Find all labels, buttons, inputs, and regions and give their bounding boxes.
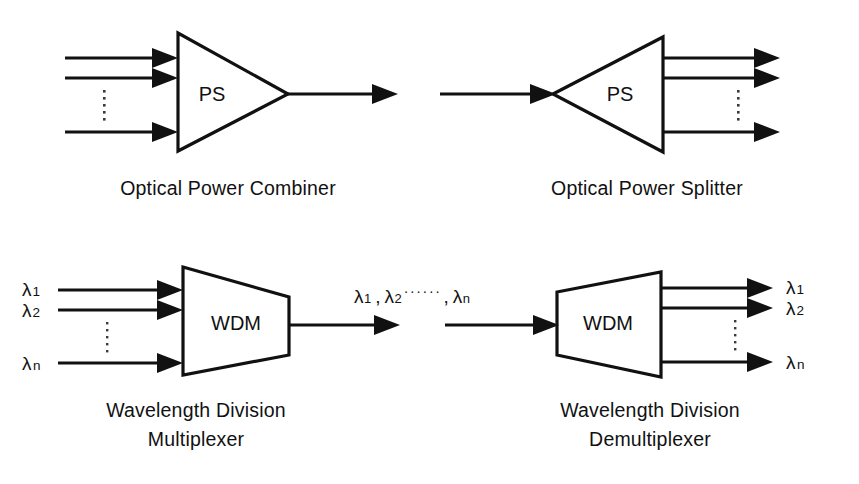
splitter-output-arrow-1 bbox=[754, 48, 780, 68]
trunk-link: λ1,λ2······,λn bbox=[289, 283, 559, 335]
demux-caption-line-1: Wavelength Division bbox=[560, 399, 740, 421]
splitter-output-wires bbox=[662, 48, 780, 142]
mux-input-arrow-1 bbox=[157, 280, 183, 300]
trunk-lambda-2-subscript: 2 bbox=[395, 291, 402, 306]
mux-input-arrow-2 bbox=[157, 300, 183, 320]
mux-input-label-1-symbol: λ bbox=[22, 279, 32, 300]
combiner-caption: Optical Power Combiner bbox=[120, 177, 336, 199]
demux-output-label-n-subscript: n bbox=[797, 357, 805, 372]
optical-components-diagram: PS Optical Power Combiner PS bbox=[0, 0, 859, 484]
demux-device-label: WDM bbox=[583, 312, 633, 334]
trunk-lambda-1-subscript: 1 bbox=[364, 291, 371, 306]
combiner-output-arrow bbox=[372, 84, 398, 104]
mux-input-label-2-symbol: λ bbox=[22, 300, 32, 321]
mux-input-arrow-n bbox=[157, 353, 183, 373]
mux-input-label-n-symbol: λ bbox=[22, 353, 32, 374]
wdm-multiplexer-panel: λ1 λ2 λn bbox=[22, 267, 289, 450]
splitter-output-arrow-n bbox=[754, 122, 780, 142]
combiner-input-arrow-2 bbox=[152, 68, 178, 88]
demux-output-label-2-symbol: λ bbox=[786, 298, 796, 319]
trunk-ellipsis-icon: ······ bbox=[404, 283, 442, 299]
demux-output-arrow-1 bbox=[747, 278, 773, 298]
mux-input-label-n: λn bbox=[22, 353, 41, 374]
mux-input-label-n-subscript: n bbox=[33, 358, 41, 373]
mux-device-label: WDM bbox=[211, 312, 261, 334]
trunk-arrow-left bbox=[374, 315, 400, 335]
mux-input-label-1: λ1 bbox=[22, 279, 40, 300]
trunk-arrow-right bbox=[533, 315, 559, 335]
splitter-output-arrow-2 bbox=[754, 68, 780, 88]
demux-output-ellipsis-icon bbox=[734, 320, 736, 350]
trunk-wavelength-label: λ1,λ2······,λn bbox=[354, 283, 470, 307]
mux-input-label-1-subscript: 1 bbox=[33, 284, 41, 299]
demux-output-label-n-symbol: λ bbox=[786, 352, 796, 373]
mux-caption-line-1: Wavelength Division bbox=[106, 399, 286, 421]
trunk-lambda-1: λ bbox=[354, 286, 364, 307]
mux-input-ellipsis-icon bbox=[106, 322, 108, 352]
optical-power-combiner-panel: PS Optical Power Combiner bbox=[65, 33, 398, 199]
diagram-canvas: PS Optical Power Combiner PS bbox=[0, 0, 859, 484]
trunk-lambda-n: λ bbox=[453, 286, 463, 307]
demux-output-label-2: λ2 bbox=[786, 298, 804, 319]
demux-output-arrow-2 bbox=[747, 298, 773, 318]
trunk-comma-1: , bbox=[375, 286, 380, 307]
optical-power-splitter-panel: PS Optical Power Splitter bbox=[440, 37, 780, 199]
mux-caption-line-2: Multiplexer bbox=[148, 428, 245, 450]
splitter-output-ellipsis-icon bbox=[737, 90, 740, 121]
combiner-input-wires bbox=[65, 48, 178, 142]
demux-output-label-2-subscript: 2 bbox=[797, 303, 805, 318]
demux-output-arrow-n bbox=[747, 352, 773, 372]
mux-input-wires bbox=[58, 280, 183, 373]
splitter-caption: Optical Power Splitter bbox=[551, 177, 743, 199]
wdm-demultiplexer-panel: WDM λ1 λ2 bbox=[557, 272, 805, 450]
demux-output-label-1-subscript: 1 bbox=[797, 282, 805, 297]
demux-caption-line-2: Demultiplexer bbox=[589, 428, 711, 450]
combiner-device-label: PS bbox=[199, 83, 226, 105]
demux-output-label-1: λ1 bbox=[786, 277, 804, 298]
demux-output-label-n: λn bbox=[786, 352, 805, 373]
demux-output-wires bbox=[660, 278, 773, 372]
mux-input-label-2-subscript: 2 bbox=[33, 305, 41, 320]
combiner-input-ellipsis-icon bbox=[103, 90, 106, 121]
trunk-lambda-2: λ bbox=[385, 286, 395, 307]
splitter-device-label: PS bbox=[607, 83, 634, 105]
trunk-lambda-n-subscript: n bbox=[463, 291, 470, 306]
demux-output-label-1-symbol: λ bbox=[786, 277, 796, 298]
combiner-input-arrow-1 bbox=[152, 48, 178, 68]
combiner-input-arrow-n bbox=[152, 122, 178, 142]
mux-input-label-2: λ2 bbox=[22, 300, 40, 321]
combiner-triangle-body bbox=[178, 33, 288, 151]
trunk-comma-2: , bbox=[443, 286, 448, 307]
